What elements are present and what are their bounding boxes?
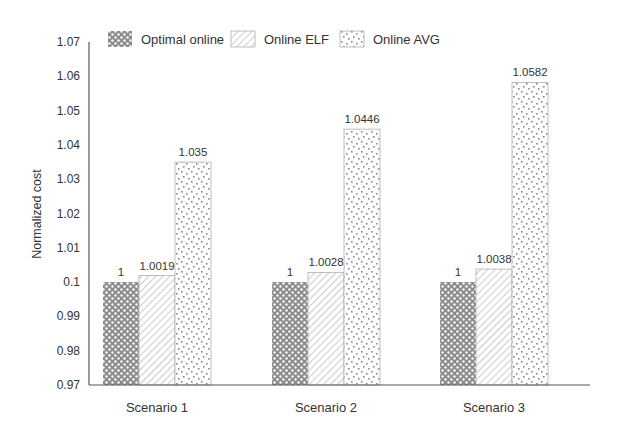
legend-item-online-avg: Online AVG (340, 31, 440, 47)
y-tick-label: 0.97 (57, 378, 81, 392)
bar-online-avg (512, 82, 548, 385)
data-label: 1.0019 (139, 260, 174, 272)
y-tick-label: 1.07 (57, 35, 81, 49)
data-label: 1 (287, 266, 293, 278)
data-label: 1 (118, 266, 124, 278)
y-tick-label: 0.99 (57, 309, 81, 323)
y-tick-label: 1.02 (57, 207, 81, 221)
bar-online-elf (476, 269, 512, 385)
bar-optimal-online (103, 282, 139, 385)
data-label: 1.0038 (476, 253, 511, 265)
x-category-label: Scenario 1 (126, 400, 188, 415)
bar-optimal-online (440, 282, 476, 385)
bar-online-elf (139, 276, 175, 385)
legend-swatch (231, 31, 255, 47)
legend-swatch (340, 31, 364, 47)
legend-label: Online ELF (264, 32, 329, 47)
legend-item-optimal-online: Optimal online (108, 31, 224, 47)
bar-online-avg (175, 162, 211, 385)
y-axis-label: Normalized cost (30, 169, 44, 259)
y-axis: 0.970.980.990.11.011.021.031.041.051.061… (57, 35, 89, 392)
y-tick-label: 0.1 (63, 275, 80, 289)
data-label: 1.0446 (344, 113, 379, 125)
y-tick-label: 1.01 (57, 241, 81, 255)
bar-group-3: 11.00381.0582 (440, 66, 548, 385)
data-label: 1.035 (179, 146, 208, 158)
x-category-label: Scenario 3 (463, 400, 525, 415)
legend-item-online-elf: Online ELF (231, 31, 329, 47)
bar-chart: Optimal onlineOnline ELFOnline AVG 0.970… (0, 0, 625, 426)
y-tick-label: 0.98 (57, 344, 81, 358)
bar-optimal-online (272, 282, 308, 385)
legend-label: Optimal online (141, 32, 224, 47)
bar-online-avg (344, 129, 380, 385)
y-tick-label: 1.03 (57, 172, 81, 186)
data-label: 1.0028 (308, 256, 343, 268)
legend-swatch (108, 31, 132, 47)
bar-online-elf (308, 272, 344, 385)
legend-label: Online AVG (373, 32, 440, 47)
legend: Optimal onlineOnline ELFOnline AVG (108, 31, 440, 47)
bar-group-1: 11.00191.035 (103, 146, 211, 385)
data-label: 1.0582 (512, 66, 547, 78)
data-label: 1 (455, 266, 461, 278)
y-tick-label: 1.05 (57, 104, 81, 118)
bars: 11.00191.03511.00281.044611.00381.0582 (103, 66, 548, 385)
bar-group-2: 11.00281.0446 (272, 113, 380, 385)
y-tick-label: 1.06 (57, 69, 81, 83)
y-tick-label: 1.04 (57, 138, 81, 152)
x-category-label: Scenario 2 (295, 400, 357, 415)
x-axis: Scenario 1Scenario 2Scenario 3 (89, 385, 590, 415)
